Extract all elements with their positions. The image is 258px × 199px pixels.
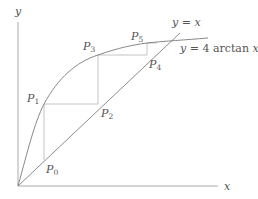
y-axis-label: y	[14, 5, 22, 18]
identity-line-label: y = x	[171, 16, 201, 29]
point-label-p0: P0	[45, 163, 58, 177]
identity-line	[18, 33, 180, 186]
point-label-p3: P3	[82, 40, 95, 54]
point-label-p2: P2	[100, 107, 113, 121]
point-label-p4: P4	[148, 58, 161, 72]
cobweb-diagram: y x y = x y = 4 arctan x P0 P1 P2 P3 P4 …	[0, 0, 258, 199]
cobweb-path	[44, 43, 157, 160]
arctan-curve-label: y = 4 arctan x	[179, 42, 258, 55]
x-axis-label: x	[224, 180, 231, 193]
point-label-p1: P1	[26, 92, 39, 106]
point-label-p5: P5	[130, 30, 143, 44]
